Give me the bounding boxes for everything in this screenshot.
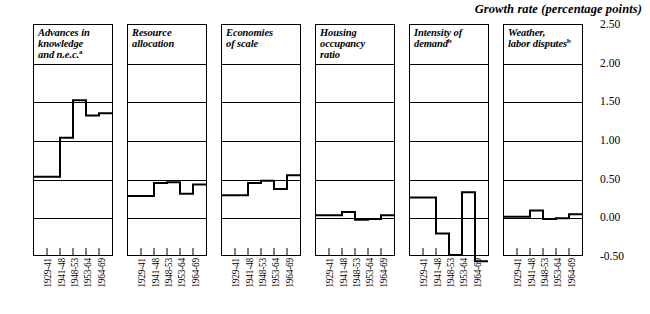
panel-label-line: Weather, <box>508 27 545 38</box>
x-tick-label: 1948-53 <box>70 258 80 310</box>
panel-economies-of-scale: Economiesof scale <box>221 24 301 256</box>
x-tick-label: 1953-64 <box>271 258 281 310</box>
panel-label-line: demand <box>414 38 448 49</box>
panel-label-line: Housing <box>320 27 357 38</box>
x-tick-label: 1964-69 <box>473 258 483 310</box>
y-tick-label: 1.50 <box>600 95 620 107</box>
panel-label-line: Resource <box>132 27 171 38</box>
x-tick-label: 1948-53 <box>540 258 550 310</box>
panel-label-line: Economies <box>226 27 273 38</box>
x-tick-label: 1953-64 <box>365 258 375 310</box>
x-tick-label: 1929-41 <box>137 258 147 310</box>
panel-weather-labor-disputes: Weather,labor disputesb <box>503 24 583 256</box>
x-tick-label: 1941-48 <box>433 258 443 310</box>
series-step-line <box>316 212 394 220</box>
panel-label-line: and n.e.c. <box>38 49 79 60</box>
panel-label-line: labor disputes <box>508 38 567 49</box>
x-tick-label: 1953-64 <box>83 258 93 310</box>
panel-footnote-marker: b <box>567 37 571 45</box>
panel-label-line: of scale <box>226 38 258 49</box>
x-ticks-economies-of-scale <box>222 245 300 255</box>
x-tick-label: 1948-53 <box>446 258 456 310</box>
panel-strip: Advances inknowledgeand n.e.c.aResourcea… <box>33 24 593 256</box>
x-ticks-intensity-of-demand <box>410 245 488 255</box>
x-tick-label: 1941-48 <box>527 258 537 310</box>
y-tick-label: 0.50 <box>600 173 620 185</box>
series-step-line <box>504 211 582 219</box>
x-ticks-weather-labor-disputes <box>504 245 582 255</box>
x-labels-intensity-of-demand: 1929-411941-481948-531953-641964-69 <box>409 258 489 314</box>
x-ticks-housing-occupancy-ratio <box>316 245 394 255</box>
panel-label-line: allocation <box>132 38 174 49</box>
x-labels-economies-of-scale: 1929-411941-481948-531953-641964-69 <box>221 258 301 314</box>
x-tick-label: 1953-64 <box>459 258 469 310</box>
x-labels-weather-labor-disputes: 1929-411941-481948-531953-641964-69 <box>503 258 583 314</box>
series-economies-of-scale <box>222 25 300 255</box>
x-tick-label: 1948-53 <box>352 258 362 310</box>
panel-label-weather-labor-disputes: Weather,labor disputesb <box>508 27 571 49</box>
x-tick-label: 1964-69 <box>567 258 577 310</box>
x-tick-label: 1929-41 <box>513 258 523 310</box>
x-tick-label: 1948-53 <box>258 258 268 310</box>
panel-label-advances-in-knowledge: Advances inknowledgeand n.e.c.a <box>38 27 90 61</box>
x-tick-label: 1941-48 <box>339 258 349 310</box>
panel-label-line: knowledge <box>38 38 83 49</box>
panel-resource-allocation: Resourceallocation <box>127 24 207 256</box>
x-tick-label: 1941-48 <box>151 258 161 310</box>
x-tick-label: 1941-48 <box>245 258 255 310</box>
panel-label-intensity-of-demand: Intensity ofdemandb <box>414 27 462 49</box>
series-step-line <box>128 182 206 196</box>
panel-label-economies-of-scale: Economiesof scale <box>226 27 273 49</box>
x-tick-label: 1929-41 <box>325 258 335 310</box>
y-tick-label: 2.00 <box>600 57 620 69</box>
x-tick-label: 1964-69 <box>191 258 201 310</box>
series-step-line <box>222 175 300 195</box>
x-labels-advances-in-knowledge: 1929-411941-481948-531953-641964-69 <box>33 258 113 314</box>
x-ticks-resource-allocation <box>128 245 206 255</box>
series-intensity-of-demand <box>410 25 488 255</box>
panel-label-line: occupancy <box>320 38 365 49</box>
y-tick-label: -0.50 <box>600 250 624 262</box>
y-tick-label: 1.00 <box>600 134 620 146</box>
figure-root: Growth rate (percentage points) Advances… <box>0 0 650 314</box>
x-ticks-advances-in-knowledge <box>34 245 112 255</box>
x-tick-label: 1929-41 <box>419 258 429 310</box>
panel-footnote-marker: a <box>79 48 82 56</box>
x-tick-label: 1964-69 <box>285 258 295 310</box>
panel-label-line: Advances in <box>38 27 90 38</box>
series-resource-allocation <box>128 25 206 255</box>
panel-label-housing-occupancy-ratio: Housingoccupancyratio <box>320 27 365 61</box>
panel-housing-occupancy-ratio: Housingoccupancyratio <box>315 24 395 256</box>
x-tick-label: 1964-69 <box>97 258 107 310</box>
x-labels-housing-occupancy-ratio: 1929-411941-481948-531953-641964-69 <box>315 258 395 314</box>
series-weather-labor-disputes <box>504 25 582 255</box>
series-step-line <box>34 100 112 177</box>
x-tick-label: 1964-69 <box>379 258 389 310</box>
x-labels-resource-allocation: 1929-411941-481948-531953-641964-69 <box>127 258 207 314</box>
panel-label-line: ratio <box>320 49 340 60</box>
figure-title: Growth rate (percentage points) <box>475 2 642 17</box>
x-tick-label: 1929-41 <box>43 258 53 310</box>
panel-advances-in-knowledge: Advances inknowledgeand n.e.c.a <box>33 24 113 256</box>
panel-label-line: Intensity of <box>414 27 462 38</box>
panel-footnote-marker: b <box>448 37 452 45</box>
x-axis-label-strip: 1929-411941-481948-531953-641964-691929-… <box>33 258 593 314</box>
x-tick-label: 1953-64 <box>177 258 187 310</box>
y-tick-label: 0.00 <box>600 211 620 223</box>
x-tick-label: 1953-64 <box>553 258 563 310</box>
y-tick-label: 2.50 <box>600 18 620 30</box>
panel-intensity-of-demand: Intensity ofdemandb <box>409 24 489 256</box>
y-axis: 2.502.001.501.000.500.00-0.50 <box>598 24 648 256</box>
x-tick-label: 1941-48 <box>57 258 67 310</box>
panel-label-resource-allocation: Resourceallocation <box>132 27 174 49</box>
x-tick-label: 1929-41 <box>231 258 241 310</box>
x-tick-label: 1948-53 <box>164 258 174 310</box>
